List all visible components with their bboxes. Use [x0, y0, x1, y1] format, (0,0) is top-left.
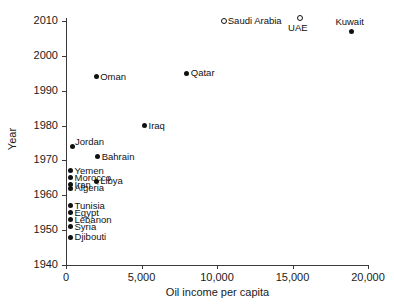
- y-tick-label: 1940: [16, 259, 58, 270]
- data-point-uae[interactable]: [297, 15, 303, 21]
- data-point-iraq[interactable]: [142, 123, 147, 128]
- x-tick-label: 10,000: [187, 272, 247, 283]
- y-tick-label: 2000: [16, 50, 58, 61]
- data-point-label-bahrain: Bahrain: [102, 152, 135, 162]
- x-tick: [368, 265, 369, 269]
- data-point-lebanon[interactable]: [68, 217, 73, 222]
- y-axis-title: Year: [6, 109, 18, 169]
- data-point-jordan[interactable]: [70, 144, 75, 149]
- data-point-yemen[interactable]: [68, 168, 73, 173]
- data-point-label-oman: Oman: [100, 72, 126, 82]
- data-point-label-djibouti: Djibouti: [75, 232, 107, 242]
- x-tick: [66, 265, 67, 269]
- y-tick: [62, 195, 66, 196]
- x-tick-label: 15,000: [263, 272, 323, 283]
- y-tick: [62, 21, 66, 22]
- x-tick: [293, 265, 294, 269]
- y-tick-label: 1990: [16, 85, 58, 96]
- x-axis-title: Oil income per capita: [66, 286, 369, 298]
- y-tick-label: 1970: [16, 154, 58, 165]
- y-tick: [62, 126, 66, 127]
- data-point-tunisia[interactable]: [68, 203, 73, 208]
- data-point-label-jordan: Jordan: [75, 137, 104, 147]
- data-point-kuwait[interactable]: [349, 29, 354, 34]
- data-point-djibouti[interactable]: [68, 235, 73, 240]
- scatter-chart: 19401950196019701980199020002010 05,0001…: [0, 0, 394, 308]
- y-tick: [62, 160, 66, 161]
- y-tick-label: 1980: [16, 120, 58, 131]
- data-point-saudi-arabia[interactable]: [221, 18, 227, 24]
- data-point-label-kuwait: Kuwait: [335, 17, 364, 27]
- data-point-label-iraq: Iraq: [149, 121, 165, 131]
- x-tick: [142, 265, 143, 269]
- data-point-morocco[interactable]: [68, 175, 73, 180]
- x-tick-label: 20,000: [338, 272, 394, 283]
- data-point-oman[interactable]: [94, 74, 99, 79]
- data-point-bahrain[interactable]: [95, 154, 100, 159]
- y-tick: [62, 230, 66, 231]
- data-point-label-algeria: Algeria: [75, 183, 105, 193]
- y-axis-line: [66, 18, 67, 268]
- y-tick-label: 1950: [16, 224, 58, 235]
- x-tick-label: 0: [36, 272, 96, 283]
- data-point-label-uae: UAE: [288, 23, 308, 33]
- data-point-qatar[interactable]: [184, 71, 189, 76]
- x-tick: [217, 265, 218, 269]
- y-tick: [62, 56, 66, 57]
- data-point-label-qatar: Qatar: [191, 68, 215, 78]
- data-point-syria[interactable]: [68, 224, 73, 229]
- x-tick-label: 5,000: [112, 272, 172, 283]
- data-point-algeria[interactable]: [68, 186, 73, 191]
- data-point-label-saudi-arabia: Saudi Arabia: [228, 16, 282, 26]
- y-tick: [62, 91, 66, 92]
- y-tick-label: 2010: [16, 15, 58, 26]
- y-tick-label: 1960: [16, 189, 58, 200]
- data-point-egypt[interactable]: [68, 210, 73, 215]
